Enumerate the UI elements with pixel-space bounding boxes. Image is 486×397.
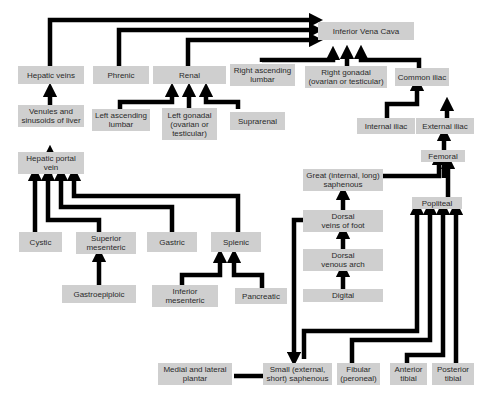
venous-flowchart: Inferior Vena Cava Hepatic veins Phrenic…: [0, 0, 486, 397]
node-medial-lateral-plantar: Medial and lateral plantar: [158, 363, 232, 385]
node-pancreatic: Pancreatic: [235, 288, 287, 304]
node-fibular: Fibular (peroneal): [337, 363, 380, 385]
node-hepatic-portal-vein: Hepatic portal vein: [18, 152, 84, 174]
node-right-gonadal: Right gonadal (ovarian or testicular): [305, 66, 387, 88]
node-suprarenal: Suprarenal: [230, 112, 285, 130]
node-posterior-tibial: Posterior tibial: [432, 363, 474, 385]
node-common-iliac: Common iliac: [395, 68, 449, 86]
node-cystic: Cystic: [19, 232, 62, 252]
node-inferior-mesenteric: Inferior mesenteric: [152, 285, 218, 307]
node-left-ascending-lumbar: Left ascending lumbar: [92, 109, 150, 131]
node-right-ascending-lumbar: Right ascending lumbar: [230, 64, 295, 86]
node-inferior-vena-cava: Inferior Vena Cava: [318, 22, 414, 40]
node-gastroepiploic: Gastroepiploic: [62, 285, 136, 303]
node-anterior-tibial: Anterior tibial: [390, 363, 427, 385]
node-left-gonadal: Left gonadal (ovarian or testicular): [162, 108, 217, 140]
node-digital: Digital: [303, 289, 383, 302]
node-superior-mesenteric: Superior mesenteric: [76, 232, 136, 254]
node-venules-sinusoids-liver: Venules and sinusoids of liver: [18, 105, 84, 127]
node-splenic: Splenic: [211, 232, 261, 252]
node-phrenic: Phrenic: [93, 66, 149, 84]
node-femoral: Femoral: [421, 150, 465, 162]
node-popliteal: Popliteal: [412, 197, 462, 209]
node-hepatic-veins: Hepatic veins: [18, 66, 84, 84]
node-gastric: Gastric: [147, 232, 197, 252]
node-renal: Renal: [153, 66, 226, 84]
node-dorsal-venous-arch: Dorsal venous arch: [303, 249, 383, 271]
node-great-saphenous: Great (internal, long) saphenous: [303, 169, 383, 191]
node-external-iliac: External iliac: [416, 118, 474, 134]
node-internal-iliac: Internal iliac: [357, 118, 415, 134]
node-dorsal-veins-foot: Dorsal veins of foot: [303, 210, 383, 232]
node-small-saphenous: Small (external, short) saphenous: [263, 363, 332, 385]
